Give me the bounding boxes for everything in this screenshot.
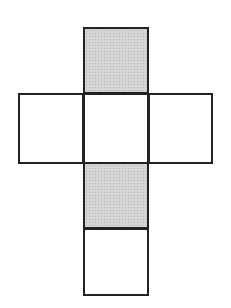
- face-lower-shaded: [83, 162, 149, 229]
- face-left: [18, 93, 84, 164]
- face-bottom: [83, 228, 149, 296]
- cube-net-diagram: [0, 0, 231, 308]
- face-center: [83, 93, 149, 164]
- face-right: [148, 93, 213, 164]
- face-top-shaded: [83, 27, 149, 94]
